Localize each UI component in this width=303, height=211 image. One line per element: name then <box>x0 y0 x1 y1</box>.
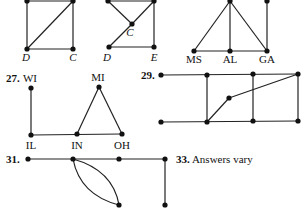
vertex-label: MI <box>91 71 105 83</box>
vertex-label: D <box>102 51 111 63</box>
graph-vertex <box>158 119 163 124</box>
graph-vertex <box>250 71 255 76</box>
graph-edge <box>207 98 229 122</box>
graph-vertex <box>116 202 121 207</box>
vertex-label: OH <box>114 139 130 151</box>
graph-edge <box>77 87 99 134</box>
graph-vertex <box>28 132 33 137</box>
graph-problem-27: WIMIILINOH27. <box>6 71 130 151</box>
graph-curved-edge <box>73 159 119 205</box>
answer-33-number: 33. <box>176 153 190 165</box>
graph-vertex <box>25 156 30 161</box>
graph-vertex <box>28 85 33 90</box>
graph-top-right: MSALGA <box>186 0 275 65</box>
graph-vertex <box>158 72 163 77</box>
graph-vertex <box>70 156 75 161</box>
vertex-label: IN <box>71 139 83 151</box>
graph-vertex <box>106 44 111 49</box>
problem-number: 27. <box>6 72 20 84</box>
answer-33: 33. Answers vary <box>176 153 253 165</box>
graph-edge <box>99 87 122 134</box>
graph-edge <box>230 1 267 51</box>
vertex-label: MS <box>186 53 202 65</box>
graph-edge <box>108 1 132 24</box>
graph-problem-31: 31. <box>6 153 168 208</box>
vertex-label: C <box>69 51 77 63</box>
graph-edge <box>161 74 298 75</box>
graph-vertex <box>204 72 209 77</box>
graph-vertex <box>295 118 300 123</box>
graph-vertex <box>116 156 121 161</box>
graph-edge <box>27 1 73 49</box>
graph-edge <box>229 74 298 98</box>
answer-33-text: Answers vary <box>192 153 253 165</box>
problem-number: 29. <box>141 69 155 81</box>
graph-top-left-square: DC <box>21 0 77 63</box>
graph-vertex <box>295 71 300 76</box>
vertex-label: E <box>150 51 158 63</box>
vertex-label: C <box>126 26 134 38</box>
graph-edge <box>161 121 298 122</box>
vertex-label: AL <box>223 53 238 65</box>
graph-vertex <box>119 131 124 136</box>
graph-vertex <box>24 0 29 4</box>
vertex-label: D <box>21 51 30 63</box>
vertex-label: IL <box>26 139 37 151</box>
graph-vertex <box>204 119 209 124</box>
graph-vertex <box>162 202 167 207</box>
graph-vertex <box>74 131 79 136</box>
vertex-label: GA <box>259 53 275 65</box>
graph-vertex <box>96 84 101 89</box>
graph-curved-edge <box>73 159 119 205</box>
graph-vertex <box>162 156 167 161</box>
graph-canvas: DCCDEMSALGAWIMIILINOH27.29.31. <box>0 0 303 211</box>
graph-edge <box>194 1 230 51</box>
graph-vertex <box>250 118 255 123</box>
graph-top-middle: CDE <box>102 0 158 63</box>
graph-edge <box>132 1 154 24</box>
graph-vertex <box>264 0 269 4</box>
problem-number: 31. <box>6 153 20 165</box>
graph-vertex <box>151 44 156 49</box>
vertex-label: WI <box>23 72 37 84</box>
graph-problem-29: 29. <box>141 69 301 125</box>
graph-vertex <box>226 95 231 100</box>
